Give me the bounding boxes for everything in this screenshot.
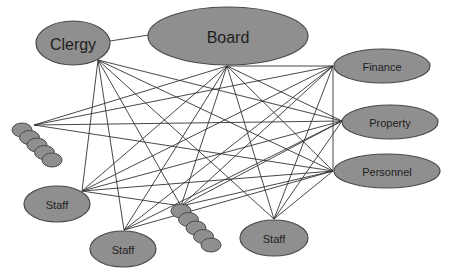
node-clergy: Clergy	[36, 21, 110, 65]
edge-property-stack-left	[34, 121, 342, 125]
member-oval	[42, 153, 62, 167]
member-oval	[201, 238, 221, 252]
edge-personnel-stack-middle	[181, 171, 333, 206]
edge-finance-staff-left	[82, 66, 333, 191]
edge-clergy-staff-middle	[98, 60, 124, 230]
node-staff-middle: Staff	[90, 231, 156, 267]
node-label: Clergy	[50, 36, 96, 53]
node-label: Staff	[112, 244, 135, 256]
stack-left	[12, 123, 62, 167]
node-staff-left: Staff	[24, 186, 90, 222]
edge-board-stack-left	[34, 66, 227, 125]
edge-clergy-staff-left	[82, 60, 98, 191]
node-label: Staff	[263, 233, 286, 245]
node-label: Staff	[46, 199, 69, 211]
edge-property-staff-middle	[124, 121, 342, 230]
node-label: Personnel	[362, 166, 412, 178]
node-label: Board	[207, 29, 250, 46]
node-property: Property	[342, 105, 438, 139]
node-personnel: Personnel	[334, 154, 440, 188]
node-finance: Finance	[334, 49, 430, 83]
edge-clergy-personnel	[98, 60, 333, 171]
node-staff-right: Staff	[240, 220, 308, 256]
node-label: Property	[369, 117, 411, 129]
stack-middle	[171, 204, 221, 252]
edge-clergy-property	[98, 60, 342, 121]
edge-staff-left-stack-middle	[82, 191, 181, 206]
edge-board-staff-left	[82, 66, 227, 191]
edge-clergy-board	[110, 35, 149, 41]
edge-board-property	[227, 66, 342, 121]
node-board: Board	[148, 7, 308, 65]
organization-nodes: ClergyBoardFinancePropertyPersonnelStaff…	[24, 7, 440, 267]
node-label: Finance	[362, 61, 401, 73]
organization-network-diagram: ClergyBoardFinancePropertyPersonnelStaff…	[0, 0, 456, 277]
